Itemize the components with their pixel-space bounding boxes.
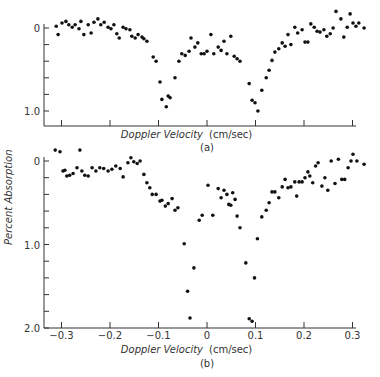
panel-b-data-point xyxy=(250,320,254,324)
panel-a-data-point xyxy=(293,25,297,29)
panel-a-data-point xyxy=(136,33,140,37)
panel-b-data-point xyxy=(176,206,180,210)
panel-a-data-point xyxy=(250,98,254,102)
panel-b-data-point xyxy=(238,226,242,230)
panel-b-data-point xyxy=(164,204,168,208)
panel-b-data-point xyxy=(142,173,146,177)
panel-b-data-point xyxy=(303,176,307,180)
panel-a-data-point xyxy=(354,25,358,29)
panel-a-data-point xyxy=(362,26,366,30)
panel-b-data-point xyxy=(129,156,133,160)
panel-a-data-point xyxy=(247,82,251,86)
panel-a-data-point xyxy=(270,59,274,63)
panel-a-caption: (a) xyxy=(200,142,214,153)
panel-b-data-point xyxy=(343,178,347,182)
panel-a-data-point xyxy=(64,20,68,24)
panel-a-data-point xyxy=(232,54,236,58)
panel-b-y-tick-label: 2.0 xyxy=(24,323,40,334)
panel-b-x-tick-label: 0.1 xyxy=(248,330,264,341)
panel-a-data-point xyxy=(345,25,349,29)
panel-b-data-point xyxy=(110,168,114,172)
panel-a-data-point xyxy=(92,20,96,24)
panel-a-data-point xyxy=(54,25,58,29)
panel-a-data-point xyxy=(296,31,300,35)
panel-a-data-point xyxy=(348,12,352,16)
panel-a-data-point xyxy=(312,25,316,29)
panel-a-data-point xyxy=(280,41,284,45)
panel-b-data-point xyxy=(166,202,170,206)
panel-b-data-point xyxy=(126,161,130,165)
panel-b-data-point xyxy=(138,159,142,163)
panel-b-xlabel: Doppler Velocity xyxy=(121,344,204,355)
panel-b-data-point xyxy=(197,219,201,223)
panel-a-y-tick-label: 0 xyxy=(34,23,40,34)
panel-b-data-point xyxy=(121,175,125,179)
panel-a-data-point xyxy=(117,36,121,40)
panel-b-data-point xyxy=(160,198,164,202)
panel-a-data-point xyxy=(124,27,128,31)
panel-a-data-point xyxy=(357,21,361,25)
panel-a-data-point xyxy=(160,98,164,102)
panel-a-data-point xyxy=(286,33,290,37)
panel-b-y-tick-label: 0 xyxy=(34,156,40,167)
panel-b-x-tick-label: −0.3 xyxy=(49,330,73,341)
panel-b-data-point xyxy=(333,182,337,186)
panel-a-y-tick-label: 1.0 xyxy=(24,106,40,117)
panel-b-data-point xyxy=(63,168,67,172)
panel-b-data-point xyxy=(267,201,271,205)
panel-a-data-point xyxy=(216,45,220,49)
panel-a-data-point xyxy=(189,36,193,40)
panel-a-data-point xyxy=(177,59,181,63)
panel-b-data-point xyxy=(351,153,355,157)
panel-a-data-point xyxy=(325,35,329,39)
panel-b-data-point xyxy=(264,209,268,213)
panel-a-data-point xyxy=(300,28,304,32)
panel-a-data-point xyxy=(256,109,260,113)
panel-a-data-point xyxy=(151,55,155,59)
panel-b-data-point xyxy=(289,185,293,189)
panel-a-data-point xyxy=(322,28,326,32)
panel-a-data-point xyxy=(328,32,332,36)
panel-b-data-point xyxy=(78,148,82,152)
panel-b-data-point xyxy=(94,169,98,173)
panel-b-data-point xyxy=(247,317,251,321)
panel-b-data-point xyxy=(349,159,353,163)
panel-a-data-point xyxy=(202,52,206,56)
panel-a-data-point xyxy=(235,57,239,61)
panel-b-data-point xyxy=(283,178,287,182)
panel-a-data-point xyxy=(168,96,172,100)
panel-a-data-point xyxy=(145,40,149,44)
panel-b-data-point xyxy=(260,215,264,219)
panel-b-data-point xyxy=(216,187,220,191)
panel-b-xlabel-unit: (cm/sec) xyxy=(209,344,252,355)
panel-b-data-point xyxy=(206,183,210,187)
panel-a-data-point xyxy=(99,23,103,27)
panel-a-data-point xyxy=(67,23,71,27)
panel-b-data-point xyxy=(170,197,174,201)
panel-b-data-point xyxy=(253,276,257,280)
panel-b-data-point xyxy=(293,180,297,184)
panel-b-data-point xyxy=(106,169,110,173)
panel-a-data-point xyxy=(209,33,213,37)
panel-b-data-point xyxy=(306,170,310,174)
panel-a-data-point xyxy=(70,25,74,29)
panel-a-data-point xyxy=(225,52,229,56)
panel-b-data-point xyxy=(102,167,106,171)
panel-a-data-point xyxy=(309,22,313,26)
panel-a-data-point xyxy=(318,30,322,34)
panel-a-xlabel: Doppler Velocity xyxy=(121,129,204,140)
panel-a-plot: 01.0 xyxy=(24,10,366,126)
panel-a-data-point xyxy=(79,20,83,24)
panel-b-data-point xyxy=(316,161,320,165)
panel-a-data-point xyxy=(193,45,197,49)
panel-b-data-point xyxy=(58,150,62,154)
panel-b-data-point xyxy=(145,181,149,185)
panel-a-data-point xyxy=(306,40,310,44)
panel-b-data-point xyxy=(235,214,239,218)
panel-b-data-point xyxy=(114,164,118,168)
panel-a-data-point xyxy=(183,54,187,58)
panel-b-data-point xyxy=(182,242,186,246)
panel-b-data-point xyxy=(53,148,57,152)
panel-b-y-tick-label: 1.0 xyxy=(24,240,40,251)
panel-a-data-point xyxy=(128,28,132,32)
